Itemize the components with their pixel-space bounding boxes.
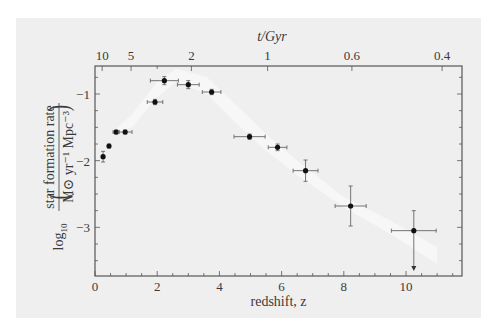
x-tick-label: 10 [400,279,413,294]
top-tick-label: 10 [96,48,109,63]
data-marker [275,145,280,150]
top-tick-label: 5 [128,48,135,63]
x-tick-label: 4 [216,279,223,294]
x-tick-label: 8 [341,279,348,294]
y-axis-denominator: M⊙ yr⁻¹ Mpc⁻³ [61,111,76,203]
data-point [391,211,436,271]
y-axis-log-prefix: log10 [51,223,69,250]
data-marker [162,78,167,83]
top-tick-label: 1 [264,48,271,63]
data-marker [100,154,105,159]
x-tick-label: 6 [278,279,285,294]
data-point [100,151,105,162]
top-tick-label: 0.6 [344,48,361,63]
data-point [335,186,366,226]
data-marker [186,82,191,87]
x-axis-title: redshift, z [251,294,307,309]
x-tick-label: 2 [154,279,161,294]
y-axis-title: log10()star formation rateM⊙ yr⁻¹ Mpc⁻³ [41,103,76,250]
model-band [114,69,437,264]
data-marker [348,203,353,208]
x-tick-label: 0 [92,279,99,294]
data-marker [209,89,214,94]
y-axis-numerator: star formation rate [42,105,57,208]
y-tick-label: −3 [76,220,90,235]
star-formation-chart: 0246810redshift, z−1−2−3105210.60.4t/Gyr… [0,0,489,327]
data-marker [411,228,416,233]
y-axis-log-sub: 10 [59,223,69,233]
y-tick-label: −2 [76,154,90,169]
data-point [106,143,111,148]
top-axis-title: t/Gyr [257,29,287,44]
upper-limit-arrow-icon [411,266,416,271]
data-marker [106,143,111,148]
top-tick-label: 0.4 [434,48,451,63]
data-marker [152,99,157,104]
data-marker [247,134,252,139]
data-marker [303,168,308,173]
y-tick-label: −1 [76,87,90,102]
data-marker [123,129,128,134]
top-tick-label: 2 [188,48,195,63]
